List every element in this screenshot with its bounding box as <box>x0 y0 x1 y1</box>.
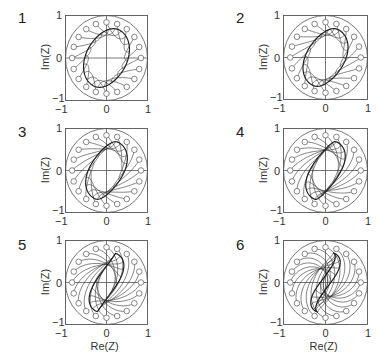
panel-number: 6 <box>236 236 244 253</box>
x-tick-label: 1 <box>145 328 151 339</box>
initial-point-marker <box>351 300 357 306</box>
initial-point-marker <box>136 291 142 297</box>
initial-point-marker <box>136 269 142 275</box>
initial-point-marker <box>114 89 120 95</box>
initial-point-marker <box>351 34 357 40</box>
x-tick-label: −1 <box>55 328 68 339</box>
initial-point-marker <box>132 147 138 153</box>
initial-point-marker <box>69 168 75 174</box>
initial-point-marker <box>93 201 99 207</box>
y-axis-label: Im(Z) <box>257 150 269 190</box>
initial-point-marker <box>351 259 357 265</box>
initial-point-marker <box>356 269 362 275</box>
initial-point-marker <box>294 147 300 153</box>
trajectory-line <box>292 269 336 294</box>
initial-point-marker <box>334 88 340 94</box>
initial-point-marker <box>138 280 144 286</box>
initial-point-marker <box>356 179 362 185</box>
y-axis-label: Im(Z) <box>257 37 269 77</box>
initial-point-marker <box>114 201 120 207</box>
initial-point-marker <box>132 300 138 306</box>
initial-point-marker <box>114 21 120 27</box>
initial-point-marker <box>83 84 89 90</box>
plot-area <box>283 240 368 325</box>
x-tick-label: 0 <box>104 328 110 339</box>
initial-point-marker <box>104 244 110 250</box>
initial-point-marker <box>93 313 99 319</box>
initial-point-marker <box>132 188 138 194</box>
y-axis-label: Im(Z) <box>39 150 51 190</box>
initial-point-marker <box>104 315 110 321</box>
initial-point-marker <box>124 26 130 32</box>
initial-point-marker <box>71 291 77 297</box>
initial-point-marker <box>138 55 144 61</box>
initial-point-marker <box>71 179 77 185</box>
y-tick-label: 0 <box>274 166 280 177</box>
x-tick-label: 0 <box>323 103 329 114</box>
x-tick-label: 1 <box>145 104 151 115</box>
initial-point-marker <box>124 251 130 257</box>
initial-point-marker <box>289 291 295 297</box>
x-tick-label: −1 <box>55 216 68 227</box>
y-axis-label: Im(Z) <box>257 262 269 302</box>
initial-point-marker <box>76 188 82 194</box>
initial-point-marker <box>93 21 99 27</box>
initial-point-marker <box>114 134 120 140</box>
initial-point-marker <box>69 55 75 61</box>
y-tick-label: 1 <box>274 235 280 246</box>
x-axis-label: Re(Z) <box>91 340 119 352</box>
y-tick-label: 1 <box>274 123 280 134</box>
initial-point-marker <box>132 76 138 82</box>
initial-point-marker <box>343 139 349 145</box>
initial-point-marker <box>343 26 349 32</box>
plot-area <box>283 15 368 100</box>
x-tick-label: 1 <box>145 216 151 227</box>
initial-point-marker <box>302 196 308 202</box>
initial-point-marker <box>124 139 130 145</box>
plot-area <box>283 128 368 213</box>
initial-point-marker <box>76 259 82 265</box>
initial-point-marker <box>104 91 110 97</box>
initial-point-marker <box>104 203 110 209</box>
y-tick-label: 0 <box>56 166 62 177</box>
panel-number: 3 <box>18 123 26 140</box>
y-axis-label: Im(Z) <box>39 262 51 302</box>
y-tick-label: 1 <box>56 10 62 21</box>
initial-point-marker <box>302 26 308 32</box>
initial-point-marker <box>351 147 357 153</box>
initial-point-marker <box>302 251 308 257</box>
plot-area <box>65 240 148 325</box>
initial-point-marker <box>83 139 89 145</box>
initial-point-marker <box>334 201 340 207</box>
panel-number: 2 <box>236 9 244 26</box>
initial-point-marker <box>334 313 340 319</box>
initial-point-marker <box>334 21 340 27</box>
initial-point-marker <box>323 132 329 138</box>
x-tick-label: 1 <box>365 103 371 114</box>
initial-point-marker <box>343 196 349 202</box>
initial-point-marker <box>312 134 318 140</box>
initial-point-marker <box>136 179 142 185</box>
initial-point-marker <box>83 308 89 314</box>
initial-point-marker <box>289 269 295 275</box>
initial-point-marker <box>136 66 142 72</box>
initial-point-marker <box>287 168 293 174</box>
initial-point-marker <box>289 179 295 185</box>
initial-point-marker <box>76 76 82 82</box>
y-tick-label: 1 <box>274 10 280 21</box>
initial-point-marker <box>93 89 99 95</box>
initial-point-marker <box>294 75 300 81</box>
x-tick-label: −1 <box>273 103 286 114</box>
initial-point-marker <box>312 21 318 27</box>
x-tick-label: 1 <box>365 216 371 227</box>
initial-point-marker <box>93 246 99 252</box>
y-tick-label: 0 <box>56 278 62 289</box>
initial-point-marker <box>334 134 340 140</box>
initial-point-marker <box>302 139 308 145</box>
initial-point-marker <box>76 147 82 153</box>
initial-point-marker <box>294 188 300 194</box>
initial-point-marker <box>71 269 77 275</box>
initial-point-marker <box>104 20 110 26</box>
initial-point-marker <box>114 313 120 319</box>
initial-point-marker <box>136 157 142 163</box>
